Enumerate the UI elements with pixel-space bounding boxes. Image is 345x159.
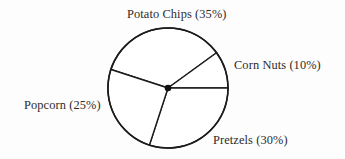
- pie-label-potato-chips: Potato Chips (35%): [127, 7, 227, 21]
- pie-chart-figure: Potato Chips (35%) Corn Nuts (10%) Pretz…: [0, 0, 345, 159]
- pie-label-corn-nuts: Corn Nuts (10%): [234, 58, 321, 72]
- pie-center-dot-icon: [165, 85, 172, 92]
- pie-chart-canvas: [0, 0, 345, 159]
- pie-label-pretzels: Pretzels (30%): [213, 133, 288, 147]
- pie-label-popcorn: Popcorn (25%): [24, 98, 101, 112]
